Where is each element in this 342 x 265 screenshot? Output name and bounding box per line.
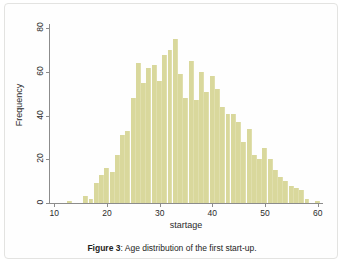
histogram-bar — [152, 65, 157, 203]
histogram-bar — [220, 107, 225, 203]
histogram-bar — [120, 135, 125, 203]
histogram-bar — [262, 148, 267, 203]
histogram-bar — [94, 183, 99, 203]
histogram-bar — [204, 92, 209, 203]
x-tick-label: 20 — [95, 208, 119, 218]
figure-caption-text: Age distribution of the first start-up. — [125, 243, 257, 253]
x-axis-title: startage — [126, 220, 246, 230]
histogram-bar — [110, 172, 115, 203]
histogram-bar — [252, 155, 257, 203]
histogram-bar — [278, 177, 283, 203]
histogram-bar — [299, 190, 304, 203]
histogram-bar — [273, 170, 278, 203]
histogram-bar — [215, 89, 220, 203]
x-axis-line — [49, 203, 323, 204]
x-tick-mark — [318, 204, 319, 207]
histogram-bar — [268, 159, 273, 203]
histogram-bar — [115, 155, 120, 203]
histogram-bar — [226, 114, 231, 204]
x-tick-label: 60 — [306, 208, 330, 218]
chart-plot-area: Frequency 020406080 102030405060 startag… — [5, 8, 339, 236]
x-tick-mark — [54, 204, 55, 207]
figure-caption: Figure 3: Age distribution of the first … — [5, 243, 339, 253]
histogram-bar — [162, 55, 167, 203]
histogram-bar — [247, 129, 252, 203]
histogram-bar — [168, 50, 173, 203]
histogram-bar — [136, 63, 141, 203]
x-tick-label: 30 — [148, 208, 172, 218]
histogram-bar — [189, 61, 194, 203]
figure-panel: Frequency 020406080 102030405060 startag… — [4, 3, 338, 259]
histogram-bar — [194, 100, 199, 203]
histogram-bar — [173, 39, 178, 203]
histogram-bars — [5, 8, 339, 236]
histogram-bar — [141, 83, 146, 203]
x-tick-mark — [160, 204, 161, 207]
x-tick-label: 40 — [200, 208, 224, 218]
histogram-bar — [146, 68, 151, 203]
x-tick-label: 50 — [253, 208, 277, 218]
x-tick-label: 10 — [42, 208, 66, 218]
x-tick-mark — [265, 204, 266, 207]
histogram-bar — [210, 76, 215, 203]
x-tick-mark — [212, 204, 213, 207]
histogram-bar — [294, 188, 299, 203]
histogram-bar — [231, 114, 236, 204]
x-tick-mark — [107, 204, 108, 207]
figure-caption-label: Figure 3 — [87, 243, 120, 253]
histogram-bar — [257, 159, 262, 203]
histogram-bar — [241, 142, 246, 203]
histogram-bar — [183, 98, 188, 203]
histogram-bar — [236, 122, 241, 203]
histogram-bar — [157, 81, 162, 203]
histogram-bar — [178, 74, 183, 203]
histogram-bar — [104, 168, 109, 203]
histogram-bar — [199, 72, 204, 203]
histogram-bar — [131, 98, 136, 203]
histogram-bar — [83, 196, 88, 203]
histogram-bar — [289, 186, 294, 203]
histogram-bar — [125, 131, 130, 203]
histogram-bar — [99, 175, 104, 203]
histogram-bar — [283, 181, 288, 203]
